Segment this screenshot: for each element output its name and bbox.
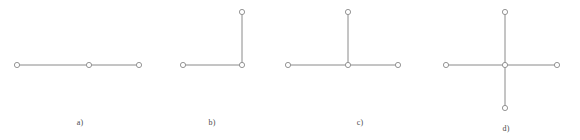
graph-node <box>285 62 290 67</box>
graph-panel-d <box>443 9 559 110</box>
graph-panel-b <box>180 9 244 67</box>
graph-panel-a <box>14 62 141 67</box>
graph-node <box>136 62 141 67</box>
graph-node <box>345 9 350 14</box>
panel-caption-d: d) <box>502 124 509 133</box>
panel-caption-c: c) <box>357 118 364 127</box>
graph-panel-c <box>285 9 400 67</box>
graph-topology-figure: a)b)c)d) <box>0 0 580 140</box>
graph-node <box>239 62 244 67</box>
graph-node <box>502 105 507 110</box>
graph-node <box>180 62 185 67</box>
figure-canvas <box>0 0 580 140</box>
panel-caption-a: a) <box>77 118 84 127</box>
graph-node <box>554 62 559 67</box>
graph-node <box>239 9 244 14</box>
graph-node <box>345 62 350 67</box>
graph-node <box>395 62 400 67</box>
graph-node <box>14 62 19 67</box>
graph-node <box>502 62 507 67</box>
graph-node <box>443 62 448 67</box>
panel-caption-b: b) <box>208 118 215 127</box>
panels-group <box>14 9 559 110</box>
graph-node <box>502 9 507 14</box>
graph-node <box>86 62 91 67</box>
